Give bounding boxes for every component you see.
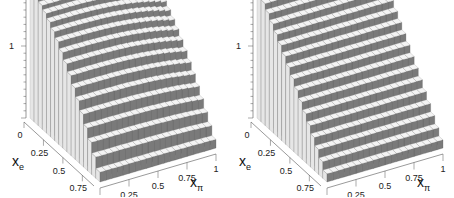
left-x-pi-tick-label: 1 <box>213 164 218 174</box>
left-x-pi-tick-label: 0.25 <box>120 190 138 198</box>
lego-plot-right: 1200.250.50.7500.250.50.751xexπ <box>227 0 454 197</box>
lego-plot-left: 1200.250.50.7500.250.50.751xexπ <box>0 0 227 197</box>
left-x-pi-tick-label: 0.5 <box>152 181 165 191</box>
figure: 1200.250.50.7500.250.50.751xexπ 1200.250… <box>0 0 454 197</box>
right-z-axis: 12 <box>236 0 253 118</box>
left-z-tick-label: 1 <box>9 41 14 51</box>
right-x-e-tick-label: 0 <box>244 130 249 140</box>
right-x-pi-axis-title: xπ <box>417 174 430 193</box>
right-plot-group: 1200.250.50.7500.250.50.751xexπ <box>236 0 446 197</box>
plot-canvas-right: 1200.250.50.7500.250.50.751xexπ <box>227 0 454 197</box>
left-x-pi-axis-title: xπ <box>190 174 203 193</box>
right-x-pi-tick-label: 1 <box>440 164 445 174</box>
left-bars <box>30 0 216 182</box>
left-z-axis: 12 <box>9 0 26 118</box>
right-x-pi-tick-label: 0.5 <box>379 181 392 191</box>
left-x-e-tick-label: 0.75 <box>70 183 88 193</box>
left-x-e-tick-label: 0.5 <box>53 166 66 176</box>
right-z-tick-label: 1 <box>236 41 241 51</box>
right-x-e-tick-label: 0.5 <box>280 166 293 176</box>
left-x-e-tick-label: 0.25 <box>31 148 49 158</box>
left-x-e-tick-label: 0 <box>17 130 22 140</box>
left-x-e-axis-title: xe <box>12 153 24 172</box>
right-x-pi-tick-label: 0.25 <box>347 190 365 198</box>
right-x-e-axis-title: xe <box>239 153 251 172</box>
right-x-e-tick-label: 0.75 <box>297 183 315 193</box>
plot-canvas-left: 1200.250.50.7500.250.50.751xexπ <box>0 0 227 197</box>
right-bars <box>257 0 443 182</box>
right-x-e-tick-label: 0.25 <box>258 148 276 158</box>
left-plot-group: 1200.250.50.7500.250.50.751xexπ <box>9 0 219 197</box>
